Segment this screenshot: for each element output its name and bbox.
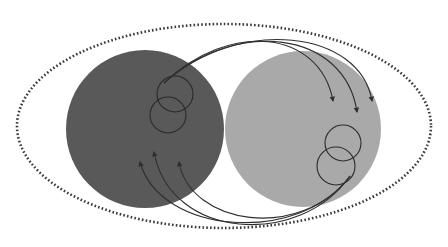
region-right <box>225 51 381 207</box>
regions <box>66 50 381 208</box>
region-left <box>66 50 224 208</box>
venn-transfer-diagram <box>0 0 448 247</box>
